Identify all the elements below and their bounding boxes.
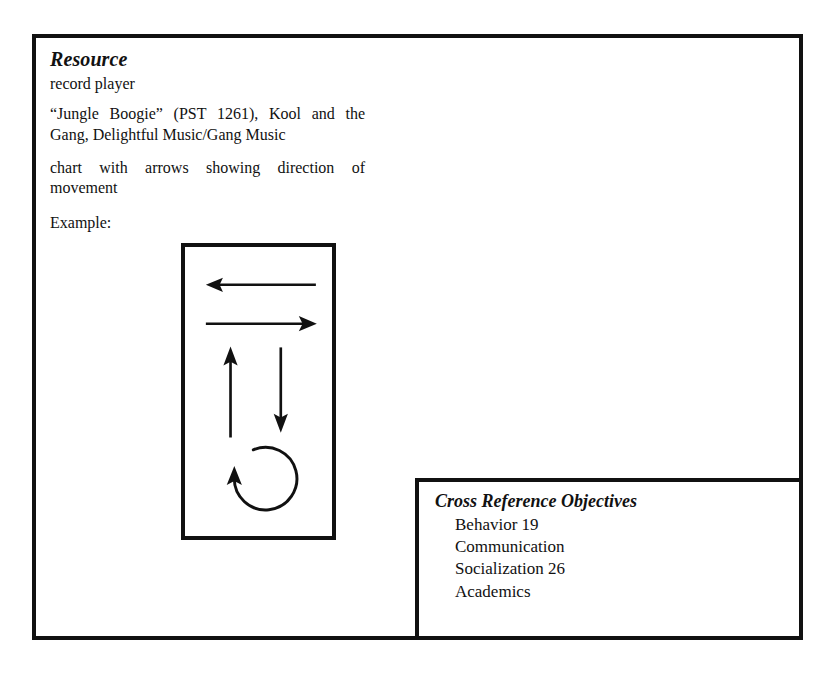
resource-example-label: Example:: [50, 213, 365, 234]
arrow-left-icon: [206, 278, 316, 292]
page-canvas: Resource record player “Jungle Boogie” (…: [0, 0, 835, 673]
cross-reference-item: Academics: [455, 581, 799, 603]
arrow-right-icon: [206, 316, 317, 331]
arrow-down-icon: [274, 347, 288, 432]
cross-reference-item: Behavior 19: [455, 514, 799, 536]
cross-reference-item: Socialization 26: [455, 558, 799, 580]
arrow-up-icon: [223, 346, 237, 437]
arrow-circle-icon: [227, 447, 297, 510]
cross-reference-content: Cross Reference Objectives Behavior 19 C…: [419, 482, 799, 603]
resource-media-citation: “Jungle Boogie” (PST 1261), Kool and the…: [50, 104, 365, 146]
resource-heading: Resource: [50, 48, 365, 72]
resource-equipment: record player: [50, 74, 365, 94]
cross-reference-list: Behavior 19 Communication Socialization …: [435, 514, 799, 604]
resource-text-block: Resource record player “Jungle Boogie” (…: [50, 48, 365, 234]
movement-chart-box: [181, 243, 336, 540]
cross-reference-panel: Cross Reference Objectives Behavior 19 C…: [415, 478, 803, 640]
resource-panel: Resource record player “Jungle Boogie” (…: [32, 34, 803, 640]
cross-reference-heading: Cross Reference Objectives: [435, 491, 799, 513]
movement-chart-svg: [185, 247, 332, 536]
cross-reference-item: Communication: [455, 536, 799, 558]
resource-materials: chart with arrows showing direction of m…: [50, 158, 365, 200]
